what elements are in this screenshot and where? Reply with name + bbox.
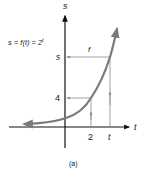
figure-caption: (a) [69, 160, 78, 168]
x-axis-label: t [134, 122, 137, 132]
mapping-label-f: f [88, 45, 91, 54]
x-tick-t: t [108, 132, 111, 142]
equation: s = f(t) = 2t [8, 37, 44, 47]
equation-exponent: t [42, 37, 44, 43]
y-axis-label: s [63, 1, 68, 11]
equation-base: s = f(t) = 2 [8, 38, 43, 47]
x-tick-2: 2 [88, 132, 93, 142]
exponential-function-diagram: s t s = f(t) = 2t f s 4 2 t (a) [0, 0, 148, 178]
y-tick-4: 4 [55, 93, 60, 103]
y-tick-s: s [56, 52, 61, 62]
